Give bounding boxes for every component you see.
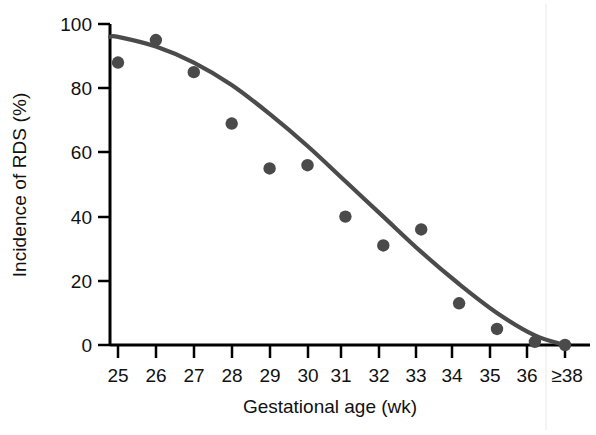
x-tick-label-27: 27 bbox=[183, 365, 204, 386]
scatter-plot-canvas: 100 80 60 40 20 0 25 26 27 bbox=[0, 0, 596, 435]
x-tick-label-32: 32 bbox=[368, 365, 389, 386]
x-tick-label-36: 36 bbox=[516, 365, 537, 386]
chart-figure: Incidence of RDS (%) 100 80 60 40 20 0 bbox=[0, 0, 596, 435]
x-tick-label-31: 31 bbox=[330, 365, 351, 386]
x-tick-label-29: 29 bbox=[259, 365, 280, 386]
data-point bbox=[263, 162, 275, 174]
y-tick-label-60: 60 bbox=[71, 142, 92, 163]
x-tick-label-33: 33 bbox=[405, 365, 426, 386]
y-axis-label-text: Incidence of RDS (%) bbox=[9, 93, 31, 278]
data-point bbox=[188, 66, 200, 78]
data-point bbox=[377, 239, 389, 251]
x-axis-label-text: Gestational age (wk) bbox=[243, 396, 417, 417]
data-point bbox=[453, 297, 465, 309]
data-point bbox=[150, 34, 162, 46]
y-tick-label-100: 100 bbox=[60, 14, 92, 35]
y-tick-label-80: 80 bbox=[71, 78, 92, 99]
data-point bbox=[491, 323, 503, 335]
data-point bbox=[226, 117, 238, 129]
x-tick-label-35: 35 bbox=[479, 365, 500, 386]
x-axis-label: Gestational age (wk) bbox=[110, 396, 550, 418]
x-tick-label-25: 25 bbox=[107, 365, 128, 386]
x-tick-label-38-or-more: ≥38 bbox=[551, 365, 583, 386]
y-tick-label-40: 40 bbox=[71, 207, 92, 228]
data-point bbox=[559, 339, 571, 351]
data-point bbox=[112, 56, 124, 68]
x-tick-label-34: 34 bbox=[441, 365, 463, 386]
data-point bbox=[339, 210, 351, 222]
x-tick-label-28: 28 bbox=[221, 365, 242, 386]
x-tick-label-26: 26 bbox=[145, 365, 166, 386]
data-point bbox=[301, 159, 313, 171]
data-point bbox=[529, 336, 541, 348]
data-point bbox=[415, 223, 427, 235]
x-tick-label-30: 30 bbox=[297, 365, 318, 386]
y-tick-label-0: 0 bbox=[81, 335, 92, 356]
y-tick-label-20: 20 bbox=[71, 271, 92, 292]
y-axis-label: Incidence of RDS (%) bbox=[0, 0, 40, 370]
